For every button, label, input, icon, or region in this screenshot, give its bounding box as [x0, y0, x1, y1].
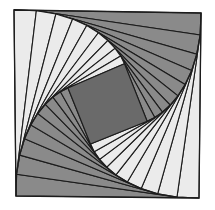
- spiral-bands-group: [14, 10, 201, 198]
- nested-squares-figure: [0, 0, 215, 210]
- figure-root: [0, 0, 215, 210]
